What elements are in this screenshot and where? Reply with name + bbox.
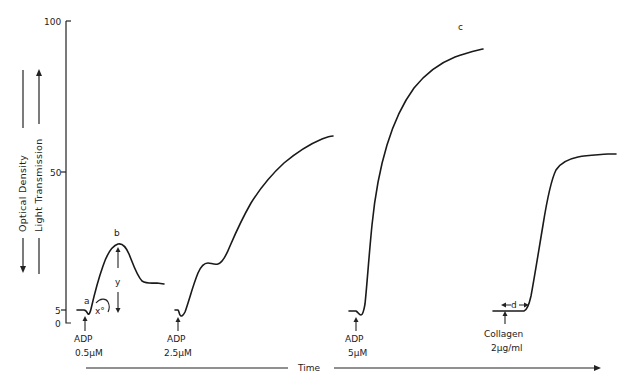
tick-label-50: 50	[50, 168, 62, 178]
trace-adp-2.5: ADP 2.5μM	[164, 136, 333, 358]
stimulus-dose: 0.5μM	[75, 348, 103, 358]
trace-adp-5: c ADP 5μM	[345, 22, 483, 358]
stimulus-dose: 5μM	[348, 348, 367, 358]
light-transmission-label: Light Transmission	[33, 139, 44, 233]
tick-label-100: 100	[44, 17, 61, 27]
stimulus-agent: ADP	[74, 334, 93, 344]
stimulus-agent: ADP	[167, 334, 186, 344]
trace-line	[77, 244, 164, 314]
optical-density-label: Optical Density	[17, 155, 28, 232]
annotation-a: a	[84, 296, 90, 306]
annotation-d: d	[511, 300, 517, 310]
trace-collagen: d Collagen 2μg/ml	[484, 154, 616, 353]
trace-line	[493, 154, 616, 311]
x-axis: Time	[86, 363, 598, 373]
tick-label-0: 0	[55, 319, 61, 329]
stimulus-agent: ADP	[345, 334, 364, 344]
y-axis-line	[66, 21, 71, 323]
aggregation-chart: 100 50 5 0 Optical Density Light Transmi…	[0, 0, 633, 383]
stimulus-dose: 2.5μM	[164, 348, 192, 358]
trace-line	[175, 136, 333, 316]
annotation-c: c	[458, 22, 463, 32]
trace-line	[349, 49, 483, 315]
trace-adp-0.5: a x° b y ADP 0.5μM	[74, 228, 164, 358]
y-axis-labels: Optical Density Light Transmission	[17, 70, 44, 274]
tick-label-5: 5	[55, 306, 61, 316]
stimulus-dose: 2μg/ml	[491, 343, 522, 353]
x-axis-label: Time	[297, 363, 320, 373]
annotation-x-degree: x°	[95, 306, 105, 316]
stimulus-agent: Collagen	[484, 329, 523, 339]
annotation-y: y	[115, 277, 121, 287]
y-axis: 100 50 5 0	[44, 17, 71, 329]
annotation-b: b	[114, 228, 120, 238]
